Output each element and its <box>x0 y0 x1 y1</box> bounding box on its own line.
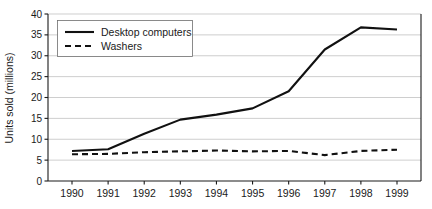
y-axis-tick-label: 35 <box>31 29 43 40</box>
chart-canvas: 0510152025303540 19901991199219931994199… <box>0 0 432 209</box>
x-axis-tick-label: 1997 <box>313 187 337 199</box>
x-axis-tick-label: 1996 <box>277 187 301 199</box>
y-axis-tick-labels: 0510152025303540 <box>31 9 43 187</box>
legend-label-washers: Washers <box>101 40 142 52</box>
x-axis-tick-label: 1995 <box>241 187 265 199</box>
chart-legend: Desktop computers Washers <box>58 21 193 57</box>
y-axis-tick-label: 40 <box>31 9 43 20</box>
y-axis-tick-label: 20 <box>31 92 43 103</box>
line-chart: 0510152025303540 19901991199219931994199… <box>0 0 432 209</box>
x-axis-tick-label: 1999 <box>385 187 409 199</box>
series-line-washers <box>72 150 397 155</box>
y-axis-tick-label: 0 <box>36 176 42 187</box>
x-axis-tick-label: 1992 <box>133 187 157 199</box>
x-axis-tick-label: 1994 <box>205 187 229 199</box>
y-axis-tick-label: 5 <box>36 155 42 166</box>
x-axis-tick-label: 1993 <box>169 187 193 199</box>
y-axis-tick-label: 30 <box>31 50 43 61</box>
legend-label-desktop-computers: Desktop computers <box>101 26 191 38</box>
x-axis-tick-label: 1991 <box>96 187 120 199</box>
x-axis-tick-label: 1998 <box>349 187 373 199</box>
y-axis-tick-label: 10 <box>31 134 43 145</box>
x-axis-tick-labels: 1990199119921993199419951996199719981999 <box>60 187 409 199</box>
y-axis-tick-label: 25 <box>31 71 43 82</box>
y-axis-title: Units sold (millions) <box>3 52 15 143</box>
y-axis-tick-label: 15 <box>31 113 43 124</box>
x-axis-tick-label: 1990 <box>60 187 84 199</box>
